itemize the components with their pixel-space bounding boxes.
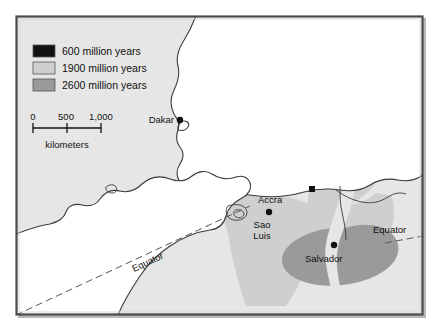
legend: 600 million years 1900 million years 260… [33, 45, 147, 91]
scale-tick-label-1000: 1,000 [89, 111, 113, 122]
city-label-dakar: Dakar [149, 114, 174, 125]
geologic-age-map-figure: Equator Equator Dakar Accra Sao Luis [0, 0, 446, 333]
city-label-sao-luis-line2: Luis [253, 230, 271, 241]
equator-label-right: Equator [373, 224, 406, 235]
city-marker-dot [266, 209, 272, 215]
city-label-accra: Accra [258, 194, 283, 205]
legend-item-1900: 1900 million years [33, 62, 147, 74]
city-label-sao-luis-line1: Sao [254, 219, 271, 230]
legend-label-600: 600 million years [62, 45, 141, 57]
map-plate: Equator Equator Dakar Accra Sao Luis [16, 16, 423, 315]
city-marker-square [309, 186, 315, 192]
swatch-2600 [33, 79, 55, 91]
scale-tick-label-500: 500 [58, 111, 74, 122]
legend-label-2600: 2600 million years [62, 79, 147, 91]
legend-item-2600: 2600 million years [33, 79, 147, 91]
scale-units-label: kilometers [45, 139, 89, 150]
africa-landmass [171, 16, 423, 197]
map-canvas: Equator Equator Dakar Accra Sao Luis [0, 0, 446, 333]
legend-label-1900: 1900 million years [62, 62, 147, 74]
scale-tick-label-0: 0 [30, 111, 35, 122]
swatch-600 [33, 45, 55, 57]
legend-item-600: 600 million years [33, 45, 141, 57]
city-marker-dot [331, 242, 337, 248]
city-label-salvador: Salvador [305, 253, 343, 264]
swatch-1900 [33, 62, 55, 74]
city-marker-dot [177, 117, 183, 123]
